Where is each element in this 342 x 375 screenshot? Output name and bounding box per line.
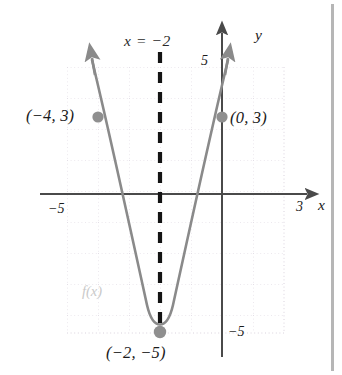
y-tick-label-positive: 5 <box>201 54 208 68</box>
point-vertex <box>154 326 166 338</box>
function-name-label: f(x) <box>82 284 102 299</box>
point-label-right: (0, 3) <box>230 110 267 127</box>
point-right <box>216 111 227 122</box>
x-tick-label-positive: 3 <box>296 200 303 214</box>
point-label-left: (−4, 3) <box>26 108 74 125</box>
x-axis-label: x <box>318 197 325 213</box>
x-tick-label-negative: −5 <box>48 202 64 216</box>
axis-of-symmetry-label: x = −2 <box>124 33 171 49</box>
y-tick-label-negative: −5 <box>228 325 244 339</box>
point-label-vertex: (−2, −5) <box>106 345 166 362</box>
graph-canvas <box>0 0 342 375</box>
figure-container: x = −2 y x (−4, 3) (0, 3) (−2, −5) 5 −5 … <box>0 0 342 375</box>
y-axis-label: y <box>255 27 262 43</box>
point-left <box>92 111 103 122</box>
